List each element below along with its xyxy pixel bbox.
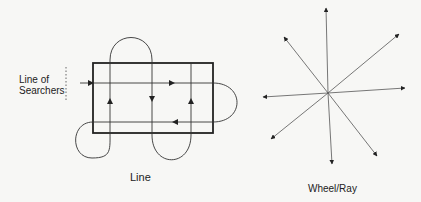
ray-lower-right: [328, 93, 377, 156]
ray-upper-right: [328, 34, 399, 93]
diagram-canvas: [0, 0, 421, 202]
ray-lower-left: [271, 93, 328, 139]
line-search-diagram: [66, 38, 237, 160]
arrow-up-right-icon: [188, 98, 194, 104]
wheel-ray-diagram: [263, 8, 405, 164]
line-of-searchers-label-line2: Searchers: [19, 85, 65, 96]
ray-upper-left: [284, 37, 328, 93]
line-caption: Line: [130, 172, 151, 183]
wheel-ray-caption: Wheel/Ray: [308, 183, 357, 194]
line-of-searchers-label: Line of Searchers: [19, 74, 65, 96]
ray-left: [263, 93, 328, 97]
line-of-searchers-label-line1: Line of: [19, 74, 65, 85]
arrow-top-right-icon: [169, 80, 175, 86]
ray-up: [326, 8, 328, 93]
ray-down: [328, 93, 332, 164]
arrow-down-middle-icon: [149, 96, 155, 102]
ray-right: [328, 88, 405, 93]
arrow-return-left-icon: [172, 119, 178, 125]
arrow-up-left-icon: [107, 98, 113, 104]
